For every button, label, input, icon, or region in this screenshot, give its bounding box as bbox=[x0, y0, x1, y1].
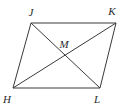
diagonal-jl bbox=[31, 23, 100, 88]
vertex-label-j: J bbox=[29, 6, 35, 18]
geometry-figure: J K L H M bbox=[0, 0, 129, 110]
vertex-label-h: H bbox=[2, 93, 12, 105]
intersection-label-m: M bbox=[58, 38, 69, 50]
vertex-label-l: L bbox=[93, 93, 100, 105]
side-kl bbox=[100, 23, 116, 88]
parallelogram-diagram: J K L H M bbox=[0, 0, 129, 110]
vertex-label-k: K bbox=[107, 5, 116, 17]
